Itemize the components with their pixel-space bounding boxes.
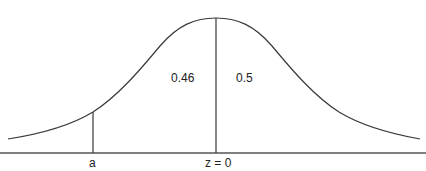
z-zero-label: z = 0	[205, 156, 232, 170]
a-label: a	[89, 156, 96, 170]
normal-curve-diagram: 0.46 0.5 a z = 0	[0, 0, 426, 171]
left-area-label: 0.46	[171, 71, 195, 85]
bell-curve	[8, 18, 420, 139]
right-area-label: 0.5	[236, 71, 253, 85]
diagram-svg: 0.46 0.5 a z = 0	[0, 0, 426, 171]
